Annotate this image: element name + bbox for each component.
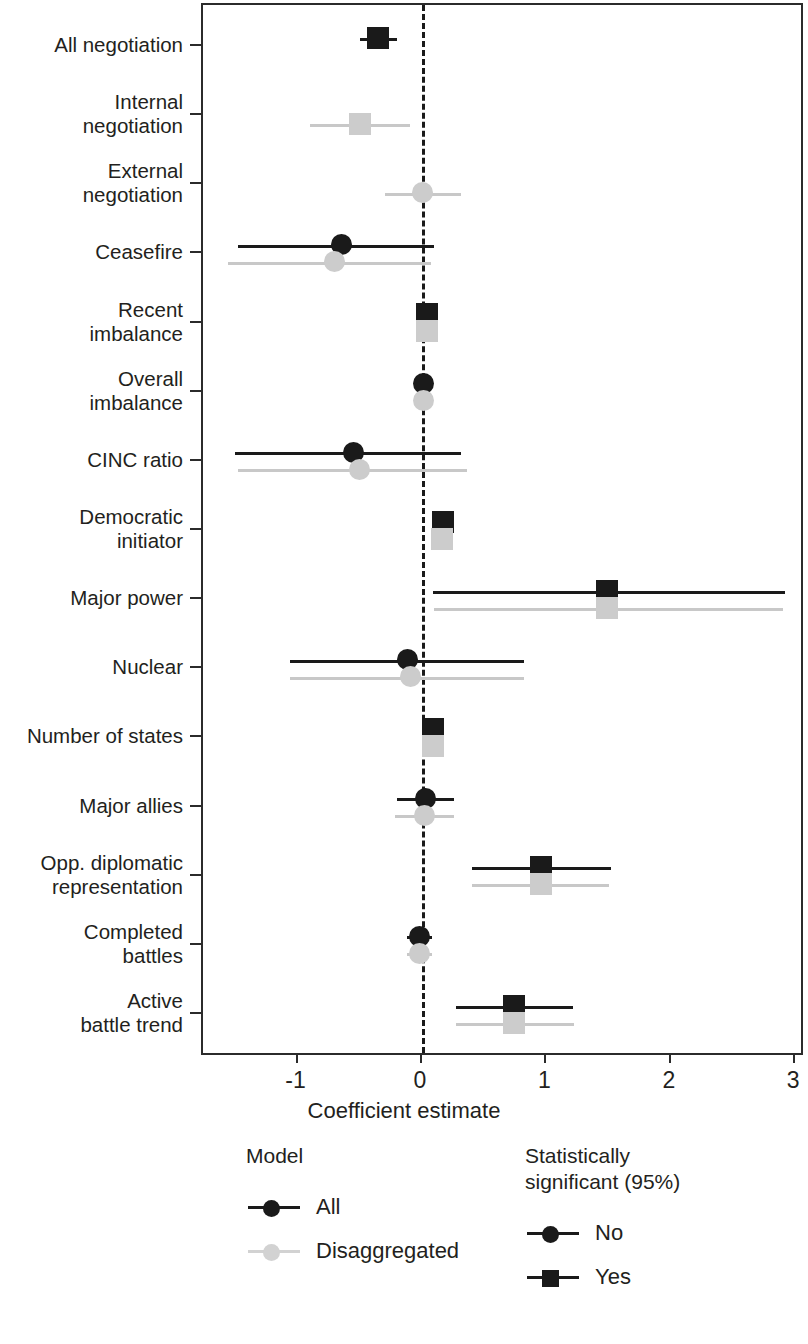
y-axis-label: External negotiation [0,159,183,207]
estimate-marker-circle [412,182,433,203]
y-axis-label: Overall imbalance [0,367,183,415]
legend-significance-title: Statistically significant (95%) [525,1143,680,1195]
y-axis-tick [190,943,201,945]
y-axis-tick [190,1012,201,1014]
x-axis-title: Coefficient estimate [0,1098,808,1124]
y-axis-tick [190,805,201,807]
legend-model: Model All Disaggregated [246,1143,459,1273]
estimate-marker-square [431,528,453,550]
y-axis-label: All negotiation [0,33,183,57]
y-axis-label: Ceasefire [0,240,183,264]
estimate-marker-square [416,320,438,342]
y-axis-label: Democratic initiator [0,505,183,553]
zero-reference-line [422,5,425,1053]
x-axis-tick [420,1054,422,1063]
x-axis-tick [793,1054,795,1063]
y-axis-label: Opp. diplomatic representation [0,851,183,899]
y-axis-label: Recent imbalance [0,298,183,346]
x-axis-tick [544,1054,546,1063]
legend-label-yes: Yes [595,1264,631,1290]
y-axis-label: CINC ratio [0,448,183,472]
y-axis-label: Major allies [0,794,183,818]
y-axis-tick [190,321,201,323]
x-axis-tick-label: 0 [390,1067,450,1094]
x-axis-tick-label: 3 [763,1067,808,1094]
y-axis-tick [190,182,201,184]
estimate-marker-square [422,735,444,757]
estimate-marker-circle [400,666,421,687]
plot-area [201,3,803,1055]
y-axis-label: Active battle trend [0,989,183,1037]
x-axis-tick-label: 1 [514,1067,574,1094]
y-axis-label: Major power [0,586,183,610]
estimate-marker-circle [414,805,435,826]
legend-label-no: No [595,1220,623,1246]
y-axis-label: Completed battles [0,920,183,968]
legend-item-disaggregated[interactable]: Disaggregated [246,1229,459,1273]
estimate-marker-square [530,873,552,895]
y-axis-tick [190,113,201,115]
legend-item-yes[interactable]: Yes [525,1255,680,1299]
estimate-marker-circle [349,459,370,480]
x-axis-tick [296,1054,298,1063]
estimate-marker-circle [324,251,345,272]
y-axis-tick [190,251,201,253]
legend-label-all: All [316,1194,340,1220]
estimate-marker-square [596,597,618,619]
estimate-marker-square [503,1012,525,1034]
y-axis-tick [190,666,201,668]
x-axis-tick [669,1054,671,1063]
legend-item-all[interactable]: All [246,1185,459,1229]
y-axis-tick [190,735,201,737]
y-axis-tick [190,597,201,599]
estimate-marker-square [349,113,371,135]
x-axis-tick-label: 2 [639,1067,699,1094]
legend-key-square-icon [525,1265,581,1289]
x-axis-tick-label: -1 [266,1067,326,1094]
legend-significance: Statistically significant (95%) No Yes [525,1143,680,1299]
legend-key-circle-light-icon [246,1239,302,1263]
estimate-marker-square [367,27,389,49]
y-axis-tick [190,459,201,461]
legend-item-no[interactable]: No [525,1211,680,1255]
y-axis-label: Number of states [0,724,183,748]
y-axis-tick [190,44,201,46]
legend-key-circle-icon [525,1221,581,1245]
y-axis-tick [190,390,201,392]
estimate-marker-circle [413,390,434,411]
legend-key-circle-dark-icon [246,1195,302,1219]
y-axis-label: Internal negotiation [0,90,183,138]
coefficient-plot-figure: All negotiationInternal negotiationExter… [0,0,808,1344]
y-axis-tick [190,874,201,876]
legend-model-title: Model [246,1143,459,1169]
y-axis-tick [190,528,201,530]
legend-label-disaggregated: Disaggregated [316,1238,459,1264]
y-axis-label: Nuclear [0,655,183,679]
estimate-marker-circle [409,943,430,964]
